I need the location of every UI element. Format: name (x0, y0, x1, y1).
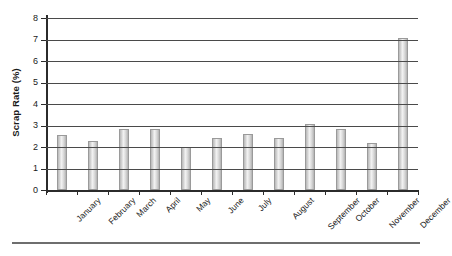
gridline-5 (46, 83, 418, 84)
x-tick-label: March (134, 196, 157, 219)
x-tick (139, 190, 140, 195)
gridline-7 (46, 40, 418, 41)
gridline-8 (46, 18, 418, 19)
x-tick (294, 190, 295, 195)
x-tick (356, 190, 357, 195)
y-tick-label-7: 7 (26, 35, 38, 44)
x-tick (325, 190, 326, 195)
x-tick (170, 190, 171, 195)
x-tick-label: July (256, 196, 273, 213)
bar (336, 129, 346, 190)
y-tick-label-4: 4 (26, 100, 38, 109)
plot-area (46, 18, 418, 190)
bar (243, 134, 253, 190)
y-axis-title-text: Scrap Rate (%) (10, 68, 21, 136)
x-tick-label: August (290, 196, 315, 221)
y-tick-label-2: 2 (26, 143, 38, 152)
x-tick (77, 190, 78, 195)
gridline-6 (46, 61, 418, 62)
y-axis-title: Scrap Rate (%) (4, 14, 26, 190)
x-tick (387, 190, 388, 195)
x-tick (418, 190, 419, 195)
x-tick-label: November (387, 196, 421, 230)
y-tick-label-6: 6 (26, 57, 38, 66)
gridline-1 (46, 169, 418, 170)
gridline-3 (46, 126, 418, 127)
bar (367, 143, 377, 190)
y-tick-label-3: 3 (26, 121, 38, 130)
x-tick-label: May (194, 196, 212, 214)
x-tick-label: December (418, 196, 452, 230)
x-tick-label: April (163, 196, 181, 214)
x-tick-label: January (74, 196, 102, 224)
y-tick-label-8: 8 (26, 14, 38, 23)
y-tick-label-5: 5 (26, 78, 38, 87)
x-tick (108, 190, 109, 195)
x-tick (263, 190, 264, 195)
bar (119, 129, 129, 190)
bar (57, 135, 67, 190)
gridline-2 (46, 147, 418, 148)
bar (150, 129, 160, 190)
x-tick (232, 190, 233, 195)
x-tick (46, 190, 47, 195)
x-tick-label: June (226, 196, 245, 215)
bottom-divider (12, 242, 420, 244)
bar (305, 124, 315, 190)
gridline-4 (46, 104, 418, 105)
x-tick (201, 190, 202, 195)
x-tick-label: February (106, 196, 136, 226)
y-tick-label-1: 1 (26, 164, 38, 173)
y-tick-label-0: 0 (26, 186, 38, 195)
